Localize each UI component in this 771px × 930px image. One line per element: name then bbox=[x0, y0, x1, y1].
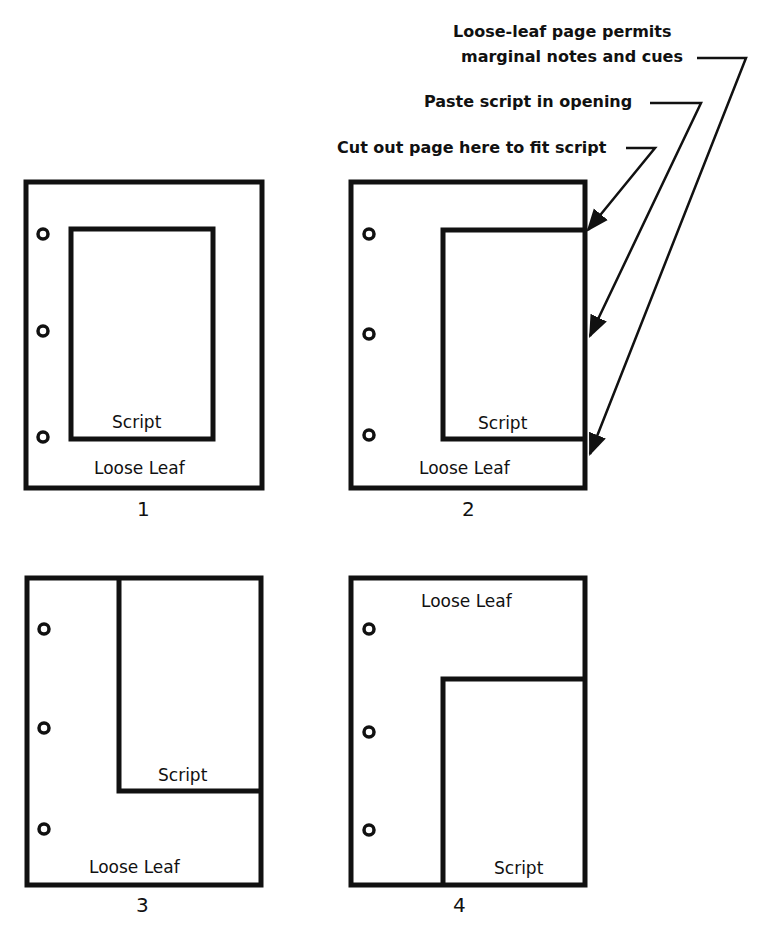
panel-2: Script Loose Leaf 2 bbox=[351, 182, 585, 521]
binder-hole-icon bbox=[364, 727, 374, 737]
panel-3: Script Loose Leaf 3 bbox=[27, 578, 261, 917]
leader-paste-arrow bbox=[590, 103, 701, 336]
script-label: Script bbox=[478, 413, 528, 433]
loose-leaf-label: Loose Leaf bbox=[94, 458, 186, 478]
panel-number: 2 bbox=[462, 497, 475, 521]
script-area bbox=[443, 679, 585, 885]
note-paste: Paste script in opening bbox=[424, 92, 632, 111]
binder-hole-icon bbox=[38, 229, 48, 239]
diagram-canvas: Loose-leaf page permits marginal notes a… bbox=[0, 0, 771, 930]
script-label: Script bbox=[158, 765, 208, 785]
binder-hole-icon bbox=[39, 624, 49, 634]
panel-number: 1 bbox=[137, 497, 150, 521]
script-label: Script bbox=[112, 412, 162, 432]
note-marginal-line2: marginal notes and cues bbox=[461, 47, 683, 66]
script-label: Script bbox=[494, 858, 544, 878]
loose-leaf-page bbox=[351, 578, 585, 885]
loose-leaf-label: Loose Leaf bbox=[421, 591, 513, 611]
binder-hole-icon bbox=[364, 229, 374, 239]
script-area bbox=[71, 229, 213, 439]
binder-hole-icon bbox=[364, 825, 374, 835]
binder-hole-icon bbox=[39, 723, 49, 733]
binder-hole-icon bbox=[364, 430, 374, 440]
panel-4: Loose Leaf Script 4 bbox=[351, 578, 585, 917]
loose-leaf-label: Loose Leaf bbox=[89, 857, 181, 877]
binder-hole-icon bbox=[39, 824, 49, 834]
binder-hole-icon bbox=[38, 432, 48, 442]
annotations: Loose-leaf page permits marginal notes a… bbox=[337, 22, 746, 454]
loose-leaf-label: Loose Leaf bbox=[419, 458, 511, 478]
note-marginal-line1: Loose-leaf page permits bbox=[453, 22, 672, 41]
note-cut: Cut out page here to fit script bbox=[337, 138, 607, 157]
panel-number: 4 bbox=[453, 893, 466, 917]
binder-hole-icon bbox=[38, 326, 48, 336]
loose-leaf-page bbox=[27, 578, 261, 885]
leader-cut-arrow bbox=[588, 148, 655, 230]
binder-hole-icon bbox=[364, 329, 374, 339]
script-area bbox=[119, 578, 261, 791]
script-area bbox=[443, 230, 585, 439]
binder-hole-icon bbox=[364, 624, 374, 634]
panel-number: 3 bbox=[136, 893, 149, 917]
leader-marginal-arrow bbox=[590, 58, 746, 454]
panel-1: Script Loose Leaf 1 bbox=[26, 182, 262, 521]
